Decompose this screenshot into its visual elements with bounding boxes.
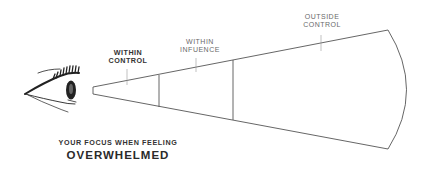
eye-icon bbox=[25, 66, 79, 112]
caption-subtitle: YOUR FOCUS WHEN FEELING bbox=[40, 138, 196, 147]
zone-label-line: OUTSIDE bbox=[294, 13, 350, 21]
zone-label-line: INFUENCE bbox=[172, 46, 228, 54]
zone-label-line: WITHIN bbox=[172, 38, 228, 46]
focus-cone-diagram bbox=[0, 0, 430, 173]
zone-label-line: CONTROL bbox=[294, 21, 350, 29]
zone-label-outside-control: OUTSIDE CONTROL bbox=[294, 13, 350, 29]
caption-title: OVERWHELMED bbox=[40, 149, 196, 161]
zone-label-within-influence: WITHIN INFUENCE bbox=[172, 38, 228, 54]
zone-label-line: CONTROL bbox=[103, 57, 153, 65]
zone-label-within-control: WITHIN CONTROL bbox=[103, 49, 153, 66]
